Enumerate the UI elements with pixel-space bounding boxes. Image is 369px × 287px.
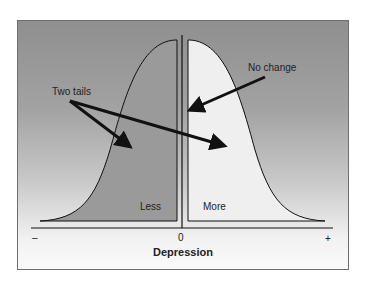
axis-max-label: +: [325, 233, 331, 244]
axis-title: Depression: [153, 246, 213, 258]
distribution-diagram: [0, 0, 369, 287]
two-tails-label: Two tails: [52, 86, 91, 97]
axis-min-label: –: [32, 232, 38, 243]
more-label: More: [203, 201, 226, 212]
axis-center-label: 0: [178, 232, 184, 243]
less-label: Less: [140, 201, 161, 212]
no-change-label: No change: [248, 62, 296, 73]
